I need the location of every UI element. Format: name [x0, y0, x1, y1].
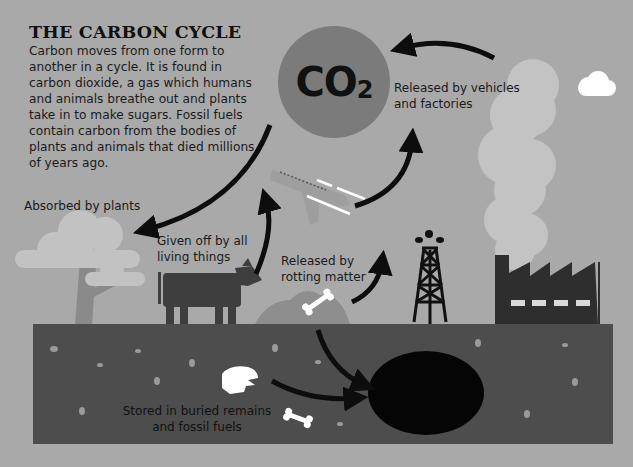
label-rotting-matter: Released by rotting matter — [281, 253, 366, 285]
fossil-fuel-deposit — [368, 351, 484, 435]
arrow-factory-to-co2 — [402, 43, 494, 58]
arrow-plane-to-co2 — [355, 140, 412, 206]
label-given-off: Given off by all living things — [157, 233, 248, 265]
label-vehicles-factories: Released by vehicles and factories — [394, 80, 520, 112]
co2-label: CO2 — [295, 59, 372, 105]
co2-circle: CO2 — [278, 26, 390, 138]
oil-gush-icon — [415, 230, 444, 243]
intro-paragraph: Carbon moves from one form to another in… — [29, 43, 264, 171]
cloud-icon — [578, 71, 616, 96]
airplane-icon — [270, 170, 365, 225]
tree-icon — [15, 210, 145, 325]
label-absorbed-by-plants: Absorbed by plants — [24, 198, 140, 214]
cow-icon — [158, 258, 262, 324]
page-title: THE CARBON CYCLE — [29, 22, 241, 42]
label-stored-fossil-fuels: Stored in buried remains and fossil fuel… — [112, 403, 282, 435]
arrow-cow-to-air — [256, 200, 269, 274]
